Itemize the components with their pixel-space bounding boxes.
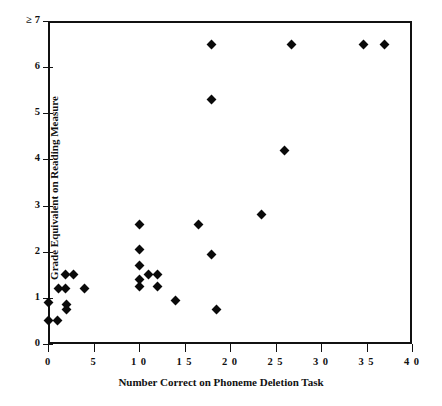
x-tick-20 (230, 344, 231, 352)
x-tick-40 (412, 344, 413, 352)
y-tick-label-5: 5 (14, 107, 40, 117)
x-tick-label-20: 2 0 (210, 356, 250, 367)
y-tick-label-0: 0 (14, 338, 40, 348)
y-tick-label-wrap-0: 0 (8, 338, 40, 350)
y-tick-7 (43, 21, 53, 22)
x-tick-label-25: 2 5 (256, 356, 296, 367)
x-tick-label-15: 1 5 (165, 356, 205, 367)
x-tick-0 (48, 344, 49, 352)
x-axis-title: Number Correct on Phoneme Deletion Task (0, 376, 442, 388)
y-tick-label-7: ≥ 7 (14, 15, 40, 25)
x-tick-25 (276, 344, 277, 352)
x-tick-30 (321, 344, 322, 352)
y-tick-label-3: 3 (14, 200, 40, 210)
x-tick-5 (94, 344, 95, 352)
y-tick-label-wrap-1: 1 (8, 292, 40, 304)
x-tick-10 (139, 344, 140, 352)
x-tick-35 (367, 344, 368, 352)
x-tick-label-30: 3 0 (301, 356, 341, 367)
plot-area-frame (48, 21, 412, 344)
y-tick-label-6: 6 (14, 61, 40, 71)
x-tick-15 (185, 344, 186, 352)
x-tick-label-35: 3 5 (347, 356, 387, 367)
y-tick-label-wrap-5: 5 (8, 107, 40, 119)
y-tick-label-wrap-4: 4 (8, 153, 40, 165)
y-tick-label-2: 2 (14, 246, 40, 256)
y-tick-label-wrap-2: 2 (8, 246, 40, 258)
y-axis-title: Grade Equivalent on Reading Measure (48, 38, 60, 338)
y-tick-label-wrap-6: 6 (8, 61, 40, 73)
x-tick-label-10: 1 0 (119, 356, 159, 367)
x-tick-label-5: 5 (74, 356, 114, 367)
x-tick-label-0: 0 (28, 356, 68, 367)
y-tick-label-4: 4 (14, 153, 40, 163)
scatter-plot-figure: 0123456≥ 7 051 01 52 02 53 03 54 0 Grade… (0, 0, 442, 406)
y-tick-label-wrap-7: ≥ 7 (8, 15, 40, 27)
x-tick-label-40: 4 0 (392, 356, 432, 367)
y-tick-label-wrap-3: 3 (8, 200, 40, 212)
y-tick-label-1: 1 (14, 292, 40, 302)
